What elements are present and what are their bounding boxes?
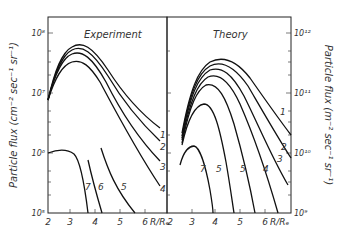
svg-text:1: 1 (280, 107, 286, 117)
svg-text:10¹¹: 10¹¹ (294, 89, 311, 98)
experiment-curve-labels: 1 2 3 4 5 6 7 (85, 130, 166, 194)
right-y-tick-labels: 10¹² 10¹¹ 10¹⁰ 10⁹ (294, 29, 311, 218)
svg-text:4: 4 (263, 164, 269, 174)
theory-curve-labels: 1 2 3 4 5 5 7 (200, 107, 287, 174)
svg-text:5: 5 (240, 164, 246, 174)
left-x-axis-unit: R/Rₑ (150, 217, 170, 227)
svg-text:5: 5 (216, 164, 222, 174)
theory-curves (180, 59, 291, 213)
right-y-axis-title: Particle flux (m⁻² sec⁻¹ sr⁻¹) (323, 45, 334, 185)
svg-text:4: 4 (160, 184, 166, 194)
theory-title: Theory (213, 29, 249, 40)
th-curve-2 (182, 64, 291, 158)
exp-curve-2 (48, 48, 160, 141)
left-y-axis-title: Particle flux (cm⁻² sec⁻¹ sr⁻¹) (8, 42, 19, 188)
th-curve-7 (180, 146, 213, 213)
svg-text:10⁸: 10⁸ (32, 29, 46, 38)
experiment-curves (48, 45, 160, 213)
exp-curve-5 (101, 148, 135, 213)
svg-text:7: 7 (85, 182, 91, 192)
experiment-title: Experiment (84, 29, 143, 40)
th-curve-5 (182, 85, 255, 213)
chart-figure: 1 2 3 4 5 6 7 1 2 3 4 5 5 7 Experiment T… (0, 0, 338, 235)
experiment-panel-frame (48, 17, 167, 213)
svg-text:4: 4 (212, 217, 218, 227)
svg-text:10¹⁰: 10¹⁰ (294, 149, 311, 158)
svg-text:10¹²: 10¹² (294, 29, 311, 38)
svg-text:10⁷: 10⁷ (32, 89, 46, 98)
svg-text:3: 3 (67, 217, 73, 227)
svg-text:3: 3 (277, 154, 283, 164)
left-y-tick-labels: 10⁸ 10⁷ 10⁶ 10⁵ (32, 29, 46, 218)
svg-text:6: 6 (262, 217, 268, 227)
svg-text:1: 1 (160, 130, 166, 140)
th-curve-6 (182, 104, 234, 213)
svg-text:3: 3 (189, 217, 195, 227)
svg-text:10⁶: 10⁶ (32, 149, 46, 158)
svg-text:6: 6 (142, 217, 148, 227)
svg-text:6: 6 (98, 182, 104, 192)
svg-text:2: 2 (281, 142, 287, 152)
svg-text:10⁵: 10⁵ (32, 209, 45, 218)
svg-text:2: 2 (160, 142, 166, 152)
left-y-ticks (48, 33, 53, 195)
exp-curve-7 (48, 150, 88, 213)
svg-text:4: 4 (92, 217, 98, 227)
svg-text:5: 5 (121, 182, 127, 192)
right-x-axis-unit: R/Rₑ (270, 217, 290, 227)
svg-text:2: 2 (45, 217, 51, 227)
svg-text:3: 3 (160, 162, 166, 172)
svg-text:5: 5 (117, 217, 123, 227)
svg-text:7: 7 (200, 164, 206, 174)
svg-text:5: 5 (237, 217, 243, 227)
svg-text:10⁹: 10⁹ (294, 209, 308, 218)
